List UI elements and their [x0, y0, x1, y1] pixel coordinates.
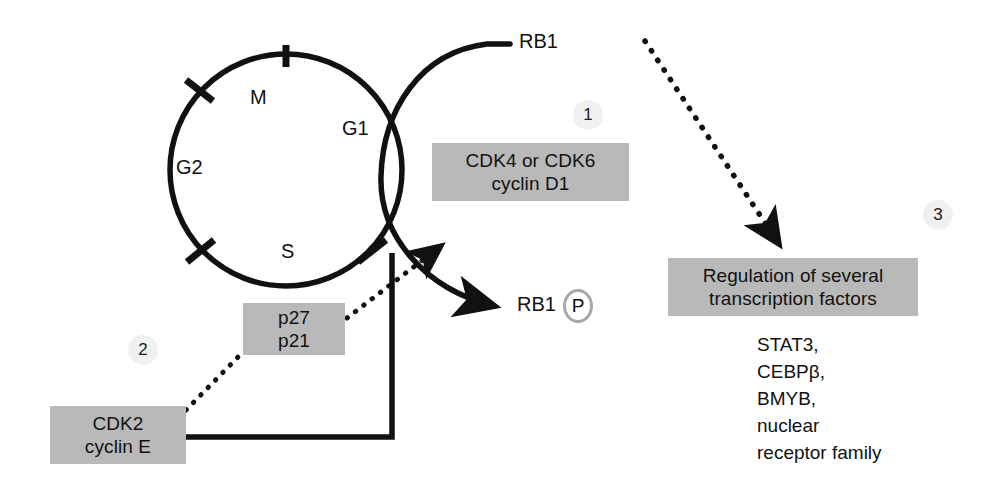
node-regulation-line1: Regulation of several	[703, 264, 884, 287]
transcription-factor-item: BMYB,	[757, 386, 882, 413]
node-p27-p21[interactable]: p27 p21	[243, 303, 345, 355]
transcription-factor-item: nuclear	[757, 413, 882, 440]
transcription-factor-item: CEBPβ,	[757, 359, 882, 386]
rb1-label: RB1	[519, 30, 558, 53]
cell-cycle-diagram: M G1 G2 S RB1 RB1 P CDK4 or CDK6 cyclin …	[0, 0, 989, 488]
node-cdk2-line1: CDK2	[92, 412, 143, 435]
phase-label-m: M	[250, 86, 267, 109]
transcription-factor-item: receptor family	[757, 440, 882, 467]
transcription-factor-list: STAT3, CEBPβ, BMYB, nuclear receptor fam…	[757, 332, 882, 467]
node-cdk4-cdk6-line1: CDK4 or CDK6	[465, 149, 595, 172]
signal-to-transcription-arrow	[645, 41, 779, 244]
node-cdk2-cyclin-e[interactable]: CDK2 cyclin E	[50, 406, 186, 464]
node-regulation-transcription-factors[interactable]: Regulation of several transcription fact…	[668, 258, 918, 316]
phase-label-g2: G2	[176, 156, 203, 179]
step-badge-2[interactable]: 2	[128, 335, 158, 365]
rb1-phosphorylated-label: RB1	[517, 293, 556, 316]
node-p27-line1: p27	[278, 306, 310, 329]
step-badge-3[interactable]: 3	[923, 200, 953, 230]
node-regulation-line2: transcription factors	[709, 287, 877, 310]
node-p21-line2: p21	[278, 329, 310, 352]
node-cdk4-cdk6-cyclin-d1[interactable]: CDK4 or CDK6 cyclin D1	[432, 143, 629, 201]
cdk2-to-p27-p21-link	[186, 352, 243, 410]
phase-label-s: S	[281, 240, 294, 263]
node-cdk4-cdk6-line2: cyclin D1	[492, 172, 570, 195]
phase-label-g1: G1	[342, 117, 369, 140]
tick-mark-g1-s	[358, 240, 386, 262]
transcription-factor-item: STAT3,	[757, 332, 882, 359]
node-cyclin-e-line2: cyclin E	[85, 435, 151, 458]
phosphate-group-icon: P	[563, 289, 593, 323]
step-badge-1[interactable]: 1	[573, 100, 603, 130]
